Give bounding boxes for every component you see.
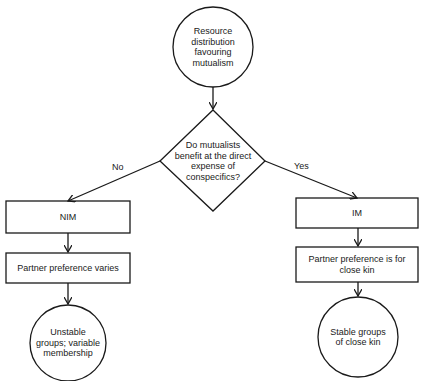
decision-node-label: Do mutualists benefit at the direct expe…: [172, 128, 254, 194]
pref-kin-node-label: Partner preference is for close kin: [306, 247, 408, 282]
unstable-node-label: Unstable groups; variable membership: [34, 318, 102, 368]
start-node-label: Resource distribution favouring mutualis…: [178, 22, 248, 72]
stable-node-label: Stable groups of close kin: [330, 312, 386, 362]
im-node-label: IM: [296, 198, 418, 228]
arrow-yes: [265, 161, 357, 198]
edge-label-yes: Yes: [294, 161, 309, 171]
nim-node-label: NIM: [6, 201, 130, 233]
pref-varies-node-label: Partner preference varies: [6, 253, 130, 283]
edge-label-no: No: [112, 162, 124, 172]
